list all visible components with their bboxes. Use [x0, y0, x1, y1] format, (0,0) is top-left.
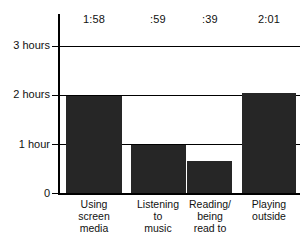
y-tick-label-3-hours: 3 hours [0, 40, 50, 51]
y-tick-label-1-hour: 1 hour [0, 139, 50, 150]
value-label-listening-to-music: :59 [128, 14, 188, 25]
bar-playing-outside [242, 93, 296, 193]
category-label-reading-being-read-to: Reading/ being read to [177, 198, 243, 234]
value-label-using-screen-media: 1:58 [64, 14, 124, 25]
bar-chart: 3 hours 2 hours 1 hour 0 1:58 :59 :39 2:… [0, 0, 307, 243]
x-axis-baseline [58, 193, 300, 195]
value-label-playing-outside: 2:01 [239, 14, 299, 25]
bar-listening-to-music [131, 145, 186, 193]
category-label-playing-outside: Playing outside [236, 198, 302, 222]
gridline-3-hours [58, 46, 300, 47]
category-label-using-screen-media: Using screen media [61, 198, 127, 234]
bar-reading-being-read-to [187, 161, 232, 193]
y-tick-label-2-hours: 2 hours [0, 89, 50, 100]
y-tick-label-zero: 0 [0, 188, 50, 199]
value-label-reading-being-read-to: :39 [180, 14, 240, 25]
bar-using-screen-media [66, 96, 122, 193]
y-axis-line [58, 14, 60, 194]
